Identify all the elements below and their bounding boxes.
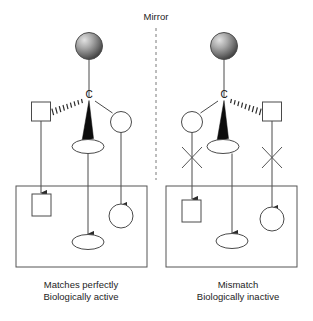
bond-c-to-square-hashed [52, 99, 83, 115]
bond-c-to-circle [201, 101, 219, 113]
substituent-sphere [76, 33, 103, 60]
molecule-left: C [32, 33, 132, 154]
bond-c-to-square-hashed [231, 99, 262, 115]
caption-left-line1: Matches perfectly [44, 279, 119, 290]
substituent-sphere [211, 33, 238, 60]
bond-c-to-ellipse-wedge [82, 101, 94, 142]
caption-right-line1: Mismatch [218, 279, 259, 290]
substituent-ellipse [207, 140, 239, 154]
receptor-site-circle [260, 207, 284, 231]
chirality-receptor-diagram: Mirror [0, 0, 313, 321]
carbon-center-label: C [220, 89, 227, 100]
receptor-site-ellipse [216, 234, 248, 249]
substituent-circle [111, 112, 132, 133]
substituent-square [263, 102, 282, 121]
caption-left-line2: Biologically active [44, 291, 119, 302]
receptor-site-square [32, 194, 51, 216]
molecule-right: C [182, 33, 282, 154]
bond-c-to-ellipse-wedge [217, 101, 229, 142]
bond-c-to-circle [95, 101, 113, 113]
receptor-site-ellipse [72, 235, 104, 250]
receptor-site-circle [109, 204, 133, 228]
substituent-ellipse [72, 140, 104, 154]
caption-right-line2: Biologically inactive [197, 291, 279, 302]
panel-left: C Matches perfectly Biologically active [16, 33, 147, 303]
receptor-left [16, 186, 147, 267]
receptor-site-square [182, 200, 201, 222]
substituent-circle [182, 112, 203, 133]
substituent-square [32, 102, 51, 121]
mirror-label: Mirror [144, 11, 169, 22]
figure-canvas: Mirror [0, 0, 313, 321]
carbon-center-label: C [85, 89, 92, 100]
panel-right: C [166, 33, 297, 303]
